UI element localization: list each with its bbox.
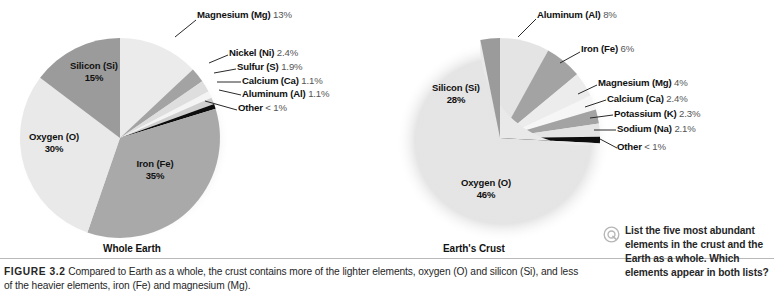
review-question-text: List the five most abundant elements in … [625, 224, 774, 280]
callout-sodium-right: Sodium (Na) 2.1% [617, 124, 696, 135]
figure-number: FIGURE 3.2 [4, 266, 65, 277]
callout-aluminum-right: Aluminum (Al) 8% [537, 10, 617, 21]
pie-label-oxygen-right: Oxygen (O) 46% [442, 177, 530, 200]
callout-calcium-right: Calcium (Ca) 2.4% [607, 94, 688, 105]
callout-other-right: Other < 1% [617, 142, 666, 153]
leader-sulfur [214, 69, 236, 73]
pie-label-silicon-left: Silicon (Si) 15% [53, 60, 135, 83]
callout-aluminum-left: Aluminum (Al) 1.1% [242, 89, 329, 100]
chart-title-whole-earth: Whole Earth [103, 243, 161, 254]
leader-aluminum [219, 90, 241, 95]
pie-label-silicon-right: Silicon (Si) 28% [415, 82, 497, 105]
callout-potassium-right: Potassium (K) 2.3% [614, 109, 700, 120]
figure-3-2: Silicon (Si) 15% Oxygen (O) 30% Iron (Fe… [0, 0, 774, 307]
pie-label-oxygen-left: Oxygen (O) 30% [10, 131, 98, 154]
leader-aluminum [518, 19, 536, 37]
callout-iron-right: Iron (Fe) 6% [581, 44, 634, 55]
pie-label-iron-left: Iron (Fe) 35% [117, 158, 193, 181]
callout-other-left: Other < 1% [238, 103, 287, 114]
leader-magnesium [175, 20, 196, 37]
review-question: List the five most abundant elements in … [603, 224, 774, 280]
question-circle-icon [603, 226, 620, 243]
callout-nickel-left: Nickel (Ni) 2.4% [229, 48, 298, 59]
leader-nickel [209, 55, 228, 63]
figure-caption-text: Compared to Earth as a whole, the crust … [4, 266, 578, 291]
callout-sulfur-left: Sulfur (S) 1.9% [237, 62, 302, 73]
chart-title-earths-crust: Earth's Crust [443, 243, 505, 254]
callout-magnesium-left: Magnesium (Mg) 13% [197, 10, 292, 21]
callout-magnesium-right: Magnesium (Mg) 4% [598, 78, 688, 89]
figure-caption: FIGURE 3.2 Compared to Earth as a whole,… [4, 265, 579, 294]
callout-calcium-left: Calcium (Ca) 1.1% [242, 76, 323, 87]
